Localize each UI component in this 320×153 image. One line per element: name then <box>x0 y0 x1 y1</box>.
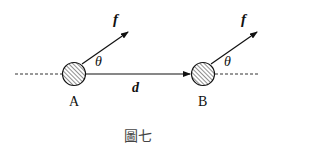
figure-caption: 圖七 <box>124 129 152 143</box>
point-label-a: A <box>69 95 79 109</box>
force-arrow-b <box>211 32 257 64</box>
particle-b-circle <box>192 63 215 86</box>
displacement-label: d <box>132 81 139 95</box>
angle-label-b: θ <box>224 55 231 69</box>
point-label-b: B <box>198 95 207 109</box>
particle-a-circle <box>63 63 86 86</box>
force-arrow-a <box>82 32 128 64</box>
force-label-a: f <box>113 12 118 27</box>
force-label-b: f <box>241 12 246 27</box>
angle-label-a: θ <box>95 55 102 69</box>
